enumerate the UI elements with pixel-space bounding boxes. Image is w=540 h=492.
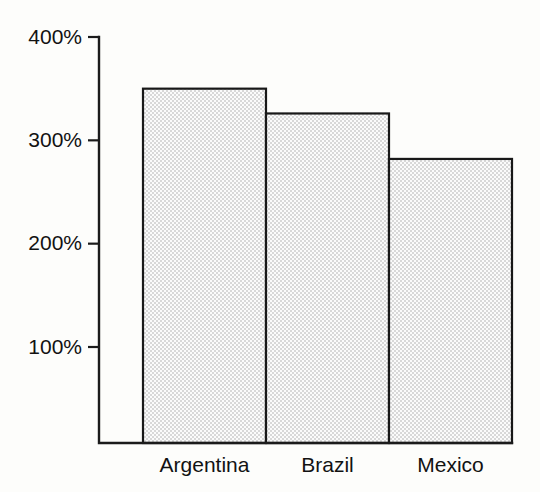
x-label-brazil: Brazil (301, 453, 354, 476)
chart-canvas: 400%300%200%100% ArgentinaBrazilMexico (0, 0, 540, 492)
bar-mexico (389, 159, 512, 443)
y-tick-label: 300% (28, 128, 82, 151)
x-category-labels: ArgentinaBrazilMexico (160, 453, 484, 476)
y-tick-label: 100% (28, 335, 82, 358)
y-tick-label: 400% (28, 25, 82, 48)
x-label-argentina: Argentina (160, 453, 250, 476)
y-tick-label: 200% (28, 231, 82, 254)
bar-argentina (143, 89, 266, 443)
bar-brazil (266, 113, 389, 443)
x-label-mexico: Mexico (417, 453, 484, 476)
bar-chart: 400%300%200%100% ArgentinaBrazilMexico (0, 0, 540, 492)
